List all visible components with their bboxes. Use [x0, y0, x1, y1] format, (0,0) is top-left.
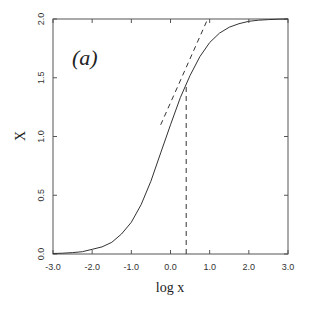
- x-tick-label: 2.0: [243, 262, 256, 272]
- y-tick-label: 2.0: [36, 13, 46, 26]
- y-tick-label: 1.5: [36, 71, 46, 84]
- x-axis-title: log x: [156, 280, 184, 295]
- chart: -3.0-2.0-1.00.01.02.03.0 0.00.51.01.52.0…: [0, 0, 309, 311]
- y-tick-labels: 0.00.51.01.52.0: [36, 13, 46, 261]
- x-tick-label: 3.0: [282, 262, 295, 272]
- dashed-line: [161, 19, 208, 125]
- y-tick-label: 0.5: [36, 189, 46, 202]
- x-tick-label: -1.0: [124, 262, 140, 272]
- y-tick-label: 0.0: [36, 248, 46, 261]
- y-axis-title: X: [13, 131, 28, 141]
- y-tick-label: 1.0: [36, 130, 46, 143]
- x-tick-label: 1.0: [203, 262, 216, 272]
- panel-label: (a): [72, 45, 98, 70]
- x-tick-label: -3.0: [45, 262, 61, 272]
- x-tick-label: 0.0: [164, 262, 177, 272]
- x-tick-labels: -3.0-2.0-1.00.01.02.03.0: [45, 262, 294, 272]
- x-tick-label: -2.0: [84, 262, 100, 272]
